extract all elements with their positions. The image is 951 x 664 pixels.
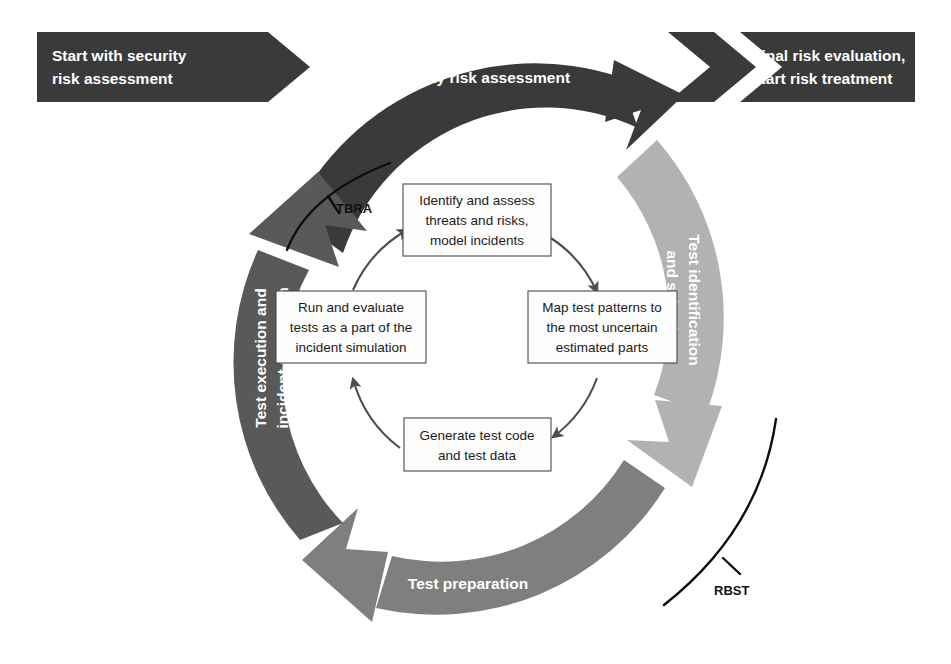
test-identification-arc-label-line-1: Test identification (686, 234, 703, 365)
identify-box-line-2: threats and risks, (426, 213, 529, 228)
tbra-tag-label: TBRA (336, 201, 373, 216)
generate-box-line-2: and test data (438, 448, 517, 463)
rbst-tag-label: RBST (714, 583, 749, 598)
start-banner-line-1: Start with security (52, 47, 187, 64)
identify-box-line-3: model incidents (430, 233, 524, 248)
run-and-evaluate-box: Run and evaluate tests as a part of the … (276, 291, 426, 363)
final-banner-line-2: start risk treatment (752, 70, 892, 87)
run-box-line-1: Run and evaluate (298, 300, 404, 315)
test-preparation-arc-label: Test preparation (408, 575, 528, 592)
map-test-patterns-box: Map test patterns to the most uncertain … (528, 291, 677, 363)
security-risk-assessment-arc-label: Security risk assessment (384, 69, 570, 86)
generate-box-line-1: Generate test code (420, 428, 535, 443)
start-banner-line-2: risk assessment (52, 70, 173, 87)
run-box-line-3: incident simulation (295, 340, 406, 355)
identify-box-line-1: Identify and assess (419, 193, 535, 208)
run-box-line-2: tests as a part of the (290, 320, 412, 335)
identify-and-assess-box: Identify and assess threats and risks, m… (403, 184, 551, 256)
risk-based-security-testing-diagram: Start with security risk assessment Fina… (0, 0, 951, 664)
final-banner-line-1: Final risk evaluation, (752, 47, 905, 64)
generate-test-code-box-frame (404, 418, 551, 471)
map-box-line-3: estimated parts (556, 340, 649, 355)
map-box-line-1: Map test patterns to (542, 300, 661, 315)
map-box-line-2: the most uncertain (546, 320, 657, 335)
test-execution-arc-label-line-1: Test execution and (252, 288, 269, 427)
generate-test-code-box: Generate test code and test data (404, 418, 551, 471)
